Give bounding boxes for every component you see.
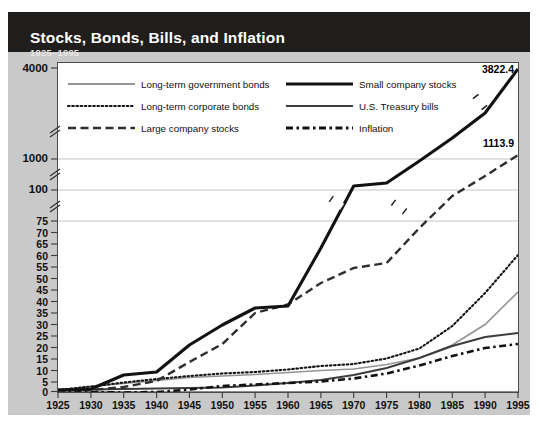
y-tick-label-60: 60 bbox=[0, 250, 48, 262]
chart-figure: Stocks, Bonds, Bills, and Inflation 1925… bbox=[0, 0, 540, 426]
legend-label-treasury-bills: U.S. Treasury bills bbox=[359, 101, 439, 112]
series-line-small-company-stocks bbox=[58, 69, 518, 390]
legend-label-large-company-stocks: Large company stocks bbox=[141, 123, 239, 134]
y-tick-label-35: 35 bbox=[0, 307, 48, 319]
y-axis-ticks bbox=[51, 68, 57, 392]
series-line-corporate-bonds bbox=[58, 255, 518, 390]
y-tick-label-50: 50 bbox=[0, 273, 48, 285]
y-tick-label-25: 25 bbox=[0, 330, 48, 342]
y-tick-label-75: 75 bbox=[0, 215, 48, 227]
y-tick-label-4000: 4000 bbox=[0, 62, 48, 74]
annotation-small-company-endvalue: 3822.4 bbox=[419, 63, 514, 75]
y-axis-break-marks bbox=[50, 126, 60, 212]
y-tick-label-20: 20 bbox=[0, 342, 48, 354]
gridlines bbox=[58, 159, 518, 392]
y-tick-label-55: 55 bbox=[0, 261, 48, 273]
legend-label-inflation: Inflation bbox=[359, 123, 393, 134]
y-tick-label-0: 0 bbox=[0, 386, 48, 398]
y-tick-label-40: 40 bbox=[0, 296, 48, 308]
legend-label-small-company-stocks: Small company stocks bbox=[359, 79, 456, 90]
y-tick-label-10: 10 bbox=[0, 365, 48, 377]
y-tick-label-1000: 1000 bbox=[0, 152, 48, 164]
y-tick-label-15: 15 bbox=[0, 353, 48, 365]
legend-label-government-bonds: Long-term government bonds bbox=[141, 79, 270, 90]
y-tick-label-65: 65 bbox=[0, 238, 48, 250]
y-tick-label-70: 70 bbox=[0, 227, 48, 239]
y-tick-label-100: 100 bbox=[0, 183, 48, 195]
line-break-marks bbox=[329, 94, 487, 214]
y-tick-label-45: 45 bbox=[0, 284, 48, 296]
y-tick-label-30: 30 bbox=[0, 319, 48, 331]
x-axis-ticks bbox=[58, 392, 518, 398]
annotation-large-company-endvalue: 1113.9 bbox=[419, 137, 514, 149]
legend-label-corporate-bonds: Long-term corporate bonds bbox=[141, 101, 259, 112]
x-tick-label-1995: 1995 bbox=[493, 399, 540, 411]
